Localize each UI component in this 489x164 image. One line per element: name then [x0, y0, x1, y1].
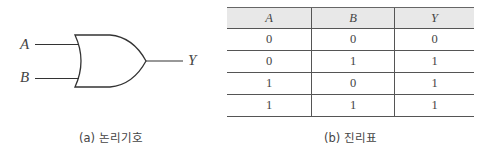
cell-b: 0 [312, 29, 395, 51]
truth-table: A B Y 0 0 0 0 1 1 1 0 1 1 1 [227, 7, 474, 117]
cell-y: 1 [395, 73, 475, 95]
input-a-label: A [20, 36, 29, 53]
truth-table-caption: (b) 진리표 [324, 129, 377, 145]
column-header-y: Y [395, 8, 475, 29]
output-y-label: Y [188, 52, 196, 69]
cell-b: 1 [312, 51, 395, 73]
or-gate-icon [0, 0, 220, 125]
cell-a: 0 [227, 51, 312, 73]
cell-y: 0 [395, 29, 475, 51]
logic-symbol-caption: (a) 논리기호 [79, 129, 143, 145]
or-gate-body [75, 35, 146, 87]
table-row: 1 0 1 [227, 73, 474, 95]
table-row: 0 1 1 [227, 51, 474, 73]
cell-b: 1 [312, 95, 395, 117]
cell-y: 1 [395, 95, 475, 117]
column-header-a: A [227, 8, 312, 29]
input-b-label: B [20, 69, 29, 86]
table-row: 1 1 1 [227, 95, 474, 117]
cell-b: 0 [312, 73, 395, 95]
column-header-b: B [312, 8, 395, 29]
cell-a: 1 [227, 73, 312, 95]
cell-a: 0 [227, 29, 312, 51]
table-header-row: A B Y [227, 8, 474, 29]
cell-y: 1 [395, 51, 475, 73]
table-row: 0 0 0 [227, 29, 474, 51]
cell-a: 1 [227, 95, 312, 117]
